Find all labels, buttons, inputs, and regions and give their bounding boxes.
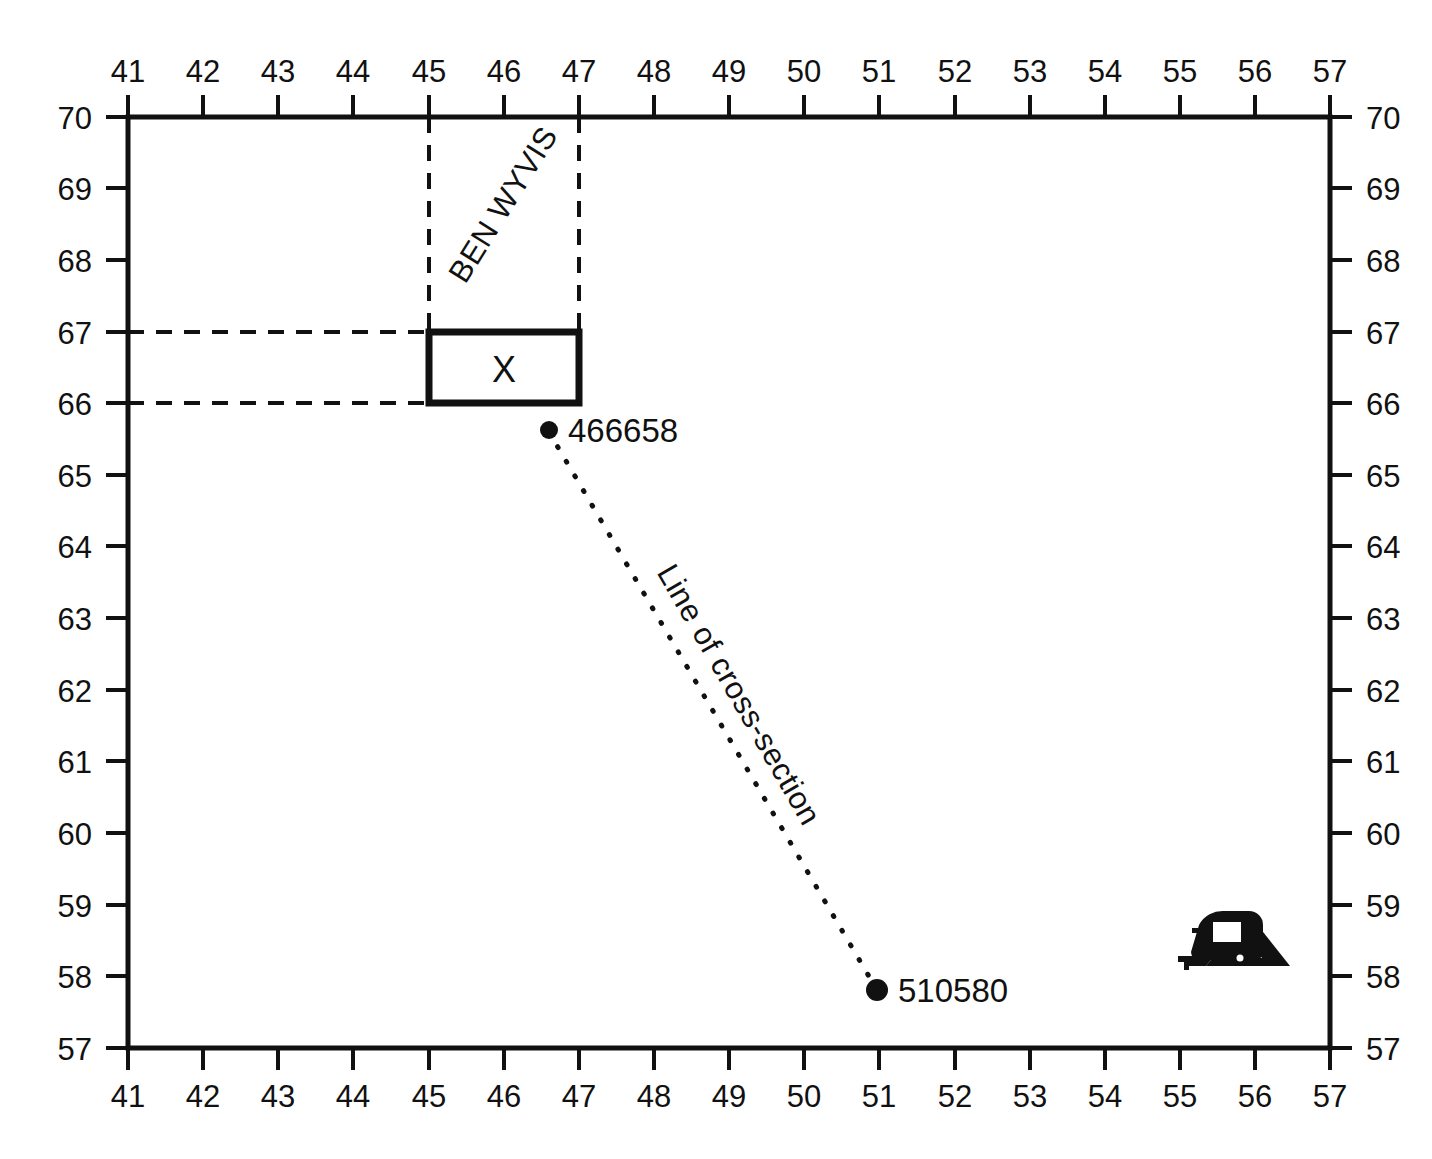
ylabel-right-3: 67	[1366, 316, 1400, 351]
xlabel-bottom-9: 50	[787, 1079, 821, 1114]
xlabel-top-7: 48	[637, 54, 671, 89]
xlabel-top-3: 44	[336, 54, 370, 89]
inset-box-group: X	[429, 332, 579, 403]
plot-frame	[128, 117, 1330, 1048]
xlabel-top-16: 57	[1313, 54, 1347, 89]
point-label-466658: 466658	[568, 412, 678, 449]
xlabel-bottom-13: 54	[1088, 1079, 1122, 1114]
xlabel-bottom-6: 47	[562, 1079, 596, 1114]
xlabel-bottom-12: 53	[1013, 1079, 1047, 1114]
xlabel-bottom-15: 56	[1238, 1079, 1272, 1114]
ylabel-right-6: 64	[1366, 530, 1400, 565]
xlabel-top-15: 56	[1238, 54, 1272, 89]
ylabel-left-11: 59	[58, 889, 92, 924]
xlabel-top-5: 46	[487, 54, 521, 89]
xlabel-top-14: 55	[1163, 54, 1197, 89]
map-canvas: 41 42 43 44 45 46 47 48 49 50 51 52 53 5…	[0, 0, 1432, 1159]
ylabel-left-8: 62	[58, 674, 92, 709]
xlabel-bottom-3: 44	[336, 1079, 370, 1114]
ylabel-left-3: 67	[58, 316, 92, 351]
ylabel-left-6: 64	[58, 530, 92, 565]
x-axis-bottom-labels: 41 42 43 44 45 46 47 48 49 50 51 52 53 5…	[111, 1079, 1347, 1114]
ylabel-right-8: 62	[1366, 674, 1400, 709]
y-axis-right-ticks	[1330, 117, 1352, 1048]
frame-rect	[128, 117, 1330, 1048]
y-axis-right-labels: 70 69 68 67 66 65 64 63 62 61 60 59 58 5…	[1366, 101, 1400, 1067]
xlabel-bottom-7: 48	[637, 1079, 671, 1114]
ylabel-left-12: 58	[58, 960, 92, 995]
ylabel-left-13: 57	[58, 1032, 92, 1067]
ylabel-right-9: 61	[1366, 745, 1400, 780]
ben-wyvis-label: BEN WYVIS	[441, 120, 564, 288]
ylabel-right-11: 59	[1366, 889, 1400, 924]
ylabel-right-7: 63	[1366, 602, 1400, 637]
xlabel-top-11: 52	[938, 54, 972, 89]
ylabel-left-5: 65	[58, 459, 92, 494]
ylabel-left-4: 66	[58, 387, 92, 422]
xlabel-bottom-1: 42	[186, 1079, 220, 1114]
y-axis-left-labels: 70 69 68 67 66 65 64 63 62 61 60 59 58 5…	[58, 101, 92, 1067]
x-axis-bottom-ticks	[128, 1048, 1330, 1070]
ylabel-right-5: 65	[1366, 459, 1400, 494]
x-axis-top-labels: 41 42 43 44 45 46 47 48 49 50 51 52 53 5…	[111, 54, 1347, 89]
ylabel-right-1: 69	[1366, 172, 1400, 207]
xlabel-top-10: 51	[862, 54, 896, 89]
xlabel-top-9: 50	[787, 54, 821, 89]
y-axis-left-ticks	[106, 117, 128, 1048]
xlabel-top-0: 41	[111, 54, 145, 89]
point-marker-466658	[540, 421, 558, 439]
point-marker-510580	[866, 979, 888, 1001]
map-figure: 41 42 43 44 45 46 47 48 49 50 51 52 53 5…	[0, 0, 1432, 1159]
cross-section-group: 466658 510580 Line of cross-section	[540, 412, 1008, 1009]
xlabel-top-4: 45	[412, 54, 446, 89]
ylabel-right-10: 60	[1366, 817, 1400, 852]
xlabel-bottom-0: 41	[111, 1079, 145, 1114]
xlabel-top-8: 49	[712, 54, 746, 89]
site-symbols-group	[1178, 911, 1290, 970]
xlabel-top-1: 42	[186, 54, 220, 89]
xlabel-bottom-5: 46	[487, 1079, 521, 1114]
xlabel-top-13: 54	[1088, 54, 1122, 89]
xlabel-bottom-14: 55	[1163, 1079, 1197, 1114]
x-axis-top-ticks	[128, 95, 1330, 117]
ylabel-right-12: 58	[1366, 960, 1400, 995]
ylabel-right-0: 70	[1366, 101, 1400, 136]
xlabel-top-2: 43	[261, 54, 295, 89]
xlabel-bottom-11: 52	[938, 1079, 972, 1114]
ylabel-left-10: 60	[58, 817, 92, 852]
box-x-marker: X	[492, 349, 516, 390]
ylabel-left-0: 70	[58, 101, 92, 136]
cross-section-label: Line of cross-section	[650, 558, 828, 831]
ben-wyvis-label-group: BEN WYVIS	[441, 120, 564, 288]
point-label-510580: 510580	[898, 972, 1008, 1009]
xlabel-bottom-4: 45	[412, 1079, 446, 1114]
xlabel-bottom-2: 43	[261, 1079, 295, 1114]
ylabel-left-2: 68	[58, 244, 92, 279]
ylabel-right-2: 68	[1366, 244, 1400, 279]
xlabel-bottom-10: 51	[862, 1079, 896, 1114]
ylabel-left-1: 69	[58, 172, 92, 207]
ylabel-right-4: 66	[1366, 387, 1400, 422]
xlabel-bottom-16: 57	[1313, 1079, 1347, 1114]
xlabel-top-6: 47	[562, 54, 596, 89]
ylabel-left-7: 63	[58, 602, 92, 637]
xlabel-top-12: 53	[1013, 54, 1047, 89]
ylabel-left-9: 61	[58, 745, 92, 780]
cross-section-line	[549, 432, 877, 990]
ylabel-right-13: 57	[1366, 1032, 1400, 1067]
xlabel-bottom-8: 49	[712, 1079, 746, 1114]
